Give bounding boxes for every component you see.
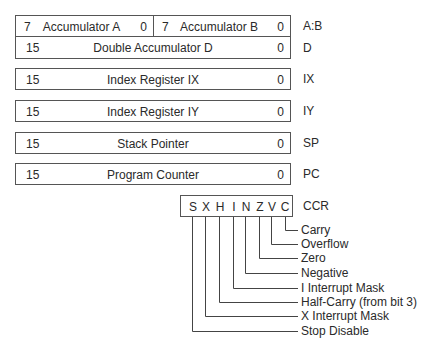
flag-zero: Zero <box>301 251 326 265</box>
flag-carry: Carry <box>301 223 330 237</box>
flag-half-carry: Half-Carry (from bit 3) <box>301 295 417 309</box>
flag-i-interrupt-mask: I Interrupt Mask <box>301 281 384 295</box>
flag-negative: Negative <box>301 266 348 280</box>
flag-stop-disable: Stop Disable <box>301 324 369 338</box>
flag-overflow: Overflow <box>301 237 348 251</box>
flag-x-interrupt-mask: X Interrupt Mask <box>301 309 389 323</box>
